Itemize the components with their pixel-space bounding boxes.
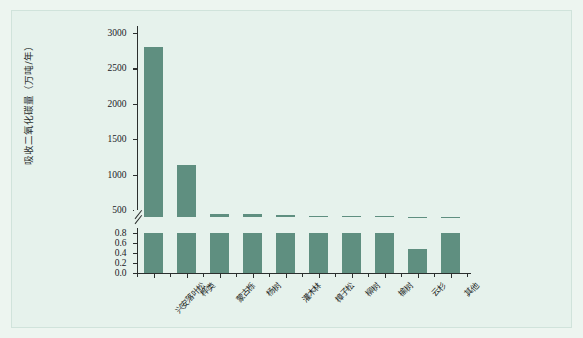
bar-lower-segment [342, 233, 361, 273]
chart-lower-panel: 0.00.20.40.60.8 [137, 228, 467, 273]
bar-lower-segment [243, 233, 262, 274]
x-tick-minor [434, 273, 435, 277]
x-tick-minor [203, 273, 204, 277]
bar-chart-figure: 吸收二氧化碳量（万吨/年） 50010001500200025003000 0.… [0, 0, 583, 338]
y-tick-upper: 500 [133, 210, 138, 211]
bar-lower-segment [309, 233, 328, 274]
y-tick-label-upper: 2500 [108, 63, 127, 73]
x-category-label: 蒙古栎 [232, 279, 257, 304]
y-tick-lower: 0.6 [133, 243, 138, 244]
chart-upper-panel: 50010001500200025003000 [137, 26, 467, 217]
bar-upper-segment [276, 215, 295, 217]
x-category-label: 杨树 [262, 279, 281, 299]
bar-lower-segment [441, 233, 460, 273]
x-tick-major [418, 273, 419, 278]
x-tick-major [385, 273, 386, 278]
x-category-label: 云杉 [427, 279, 446, 299]
x-tick-minor [401, 273, 402, 277]
x-tick-minor [368, 273, 369, 277]
x-tick-major [253, 273, 254, 278]
y-axis-spine-upper [137, 26, 138, 217]
y-tick-label-upper: 500 [112, 205, 126, 215]
x-category-label: 榆树 [394, 279, 413, 299]
bar-upper-segment [375, 216, 394, 217]
y-tick-label-upper: 3000 [108, 28, 127, 38]
bar-upper-segment [441, 217, 460, 218]
x-tick-major [451, 273, 452, 278]
y-tick-label-upper: 1500 [108, 134, 127, 144]
y-tick-upper: 1500 [133, 139, 138, 140]
y-tick-lower: 0.2 [133, 263, 138, 264]
x-tick-minor [302, 273, 303, 277]
x-category-label: 灌木林 [298, 279, 323, 304]
x-tick-major [352, 273, 353, 278]
y-tick-label-lower: 0.2 [115, 258, 127, 268]
y-tick-label-lower: 0.6 [115, 238, 127, 248]
x-tick-major [220, 273, 221, 278]
bar-upper-segment [177, 165, 196, 217]
x-category-label: 樟子松 [331, 279, 356, 304]
bar-upper-segment [309, 216, 328, 217]
x-tick-major [319, 273, 320, 278]
x-category-label: 其他 [460, 279, 479, 299]
bar-upper-segment [210, 214, 229, 217]
bar-upper-segment [243, 214, 262, 217]
bar-lower-segment [177, 233, 196, 274]
bar-lower-segment [276, 233, 295, 274]
y-tick-lower: 0.4 [133, 253, 138, 254]
x-tick-minor [269, 273, 270, 277]
x-tick-major [187, 273, 188, 278]
x-tick-major [154, 273, 155, 278]
x-tick-minor [236, 273, 237, 277]
bar-lower-segment [408, 249, 427, 273]
y-tick-label-upper: 2000 [108, 99, 127, 109]
x-tick-minor [170, 273, 171, 277]
y-tick-upper: 2500 [133, 68, 138, 69]
y-tick-upper: 3000 [133, 33, 138, 34]
y-tick-upper: 2000 [133, 104, 138, 105]
bar-upper-segment [342, 216, 361, 217]
y-axis-title: 吸收二氧化碳量（万吨/年） [21, 23, 35, 183]
y-tick-lower: 0.8 [133, 233, 138, 234]
y-axis-spine-lower [137, 228, 138, 273]
scanned-page: 吸收二氧化碳量（万吨/年） 50010001500200025003000 0.… [0, 0, 583, 338]
y-tick-upper: 1000 [133, 175, 138, 176]
y-tick-label-lower: 0.8 [115, 228, 127, 238]
y-tick-label-upper: 1000 [108, 170, 127, 180]
x-tick-minor [137, 273, 138, 277]
bar-lower-segment [375, 233, 394, 273]
x-category-label: 柳树 [361, 279, 380, 299]
y-tick-label-lower: 0.4 [115, 248, 127, 258]
bar-lower-segment [144, 233, 163, 274]
x-tick-major [286, 273, 287, 278]
y-tick-label-lower: 0.0 [115, 268, 127, 278]
x-tick-minor [335, 273, 336, 277]
bar-upper-segment [144, 47, 163, 218]
bar-lower-segment [210, 233, 229, 274]
x-tick-minor [467, 273, 468, 277]
